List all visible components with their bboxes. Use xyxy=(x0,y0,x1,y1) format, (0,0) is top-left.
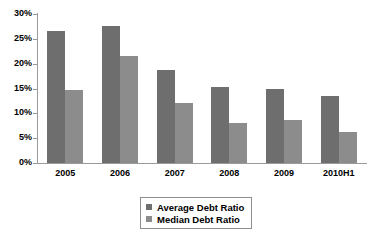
bar-average[interactable] xyxy=(211,87,229,163)
bar-median[interactable] xyxy=(284,120,302,163)
chart-legend: Average Debt Ratio Median Debt Ratio xyxy=(140,197,252,229)
y-axis-tick-label: 30% xyxy=(0,9,32,18)
bar-group xyxy=(102,14,138,163)
legend-item-median[interactable]: Median Debt Ratio xyxy=(146,213,244,225)
plot-area xyxy=(38,14,366,163)
x-axis-tick-label: 2007 xyxy=(147,168,202,179)
y-axis-tick xyxy=(33,163,38,164)
bar-median[interactable] xyxy=(120,56,138,163)
x-axis-tick-label: 2010H1 xyxy=(311,168,366,179)
bar-group xyxy=(47,14,83,163)
bar-median[interactable] xyxy=(229,123,247,163)
y-axis-tick-label: 25% xyxy=(0,34,32,43)
bar-group xyxy=(266,14,302,163)
legend-swatch-median-icon xyxy=(146,216,152,222)
bar-average[interactable] xyxy=(266,89,284,163)
bar-median[interactable] xyxy=(65,90,83,164)
legend-label-average: Average Debt Ratio xyxy=(157,202,244,213)
bar-average[interactable] xyxy=(102,26,120,163)
y-axis-tick-label: 15% xyxy=(0,84,32,93)
y-axis-tick-label: 5% xyxy=(0,133,32,142)
bar-average[interactable] xyxy=(157,70,175,163)
x-axis-tick-label: 2008 xyxy=(202,168,257,179)
legend-item-average[interactable]: Average Debt Ratio xyxy=(146,201,244,213)
y-axis-tick-label: 0% xyxy=(0,158,32,167)
legend-swatch-average-icon xyxy=(146,204,152,210)
bar-group xyxy=(211,14,247,163)
x-axis-line xyxy=(37,163,367,164)
bar-median[interactable] xyxy=(175,103,193,163)
x-axis-tick-label: 2006 xyxy=(93,168,148,179)
x-axis-tick-label: 2009 xyxy=(257,168,312,179)
y-axis-tick-label: 20% xyxy=(0,59,32,68)
bar-median[interactable] xyxy=(339,132,357,163)
bar-group xyxy=(321,14,357,163)
y-axis-tick-label: 10% xyxy=(0,108,32,117)
debt-ratio-bar-chart: 0%5%10%15%20%25%30% 20052006200720082009… xyxy=(0,0,373,244)
bar-average[interactable] xyxy=(321,96,339,163)
bar-group xyxy=(157,14,193,163)
legend-label-median: Median Debt Ratio xyxy=(157,214,240,225)
bar-average[interactable] xyxy=(47,31,65,163)
x-axis-tick-label: 2005 xyxy=(38,168,93,179)
